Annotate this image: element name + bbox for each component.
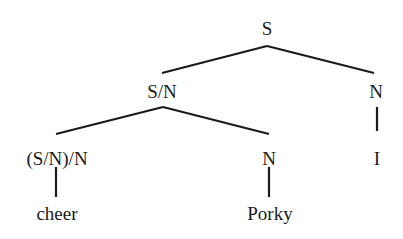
node-s-over-n: S/N (147, 82, 177, 101)
node-n-right: N (369, 82, 383, 101)
node-s-over-n-over-n: (S/N)/N (26, 149, 87, 168)
node-n-middle: N (262, 149, 276, 168)
edge-s-to-sn (162, 46, 267, 73)
leaf-cheer: cheer (36, 204, 77, 223)
node-i: I (374, 149, 380, 168)
edge-s-to-n-right (267, 46, 374, 73)
node-root-s: S (262, 19, 273, 38)
leaf-porky: Porky (247, 204, 292, 223)
edge-sn-to-n-mid (163, 107, 269, 134)
edge-sn-to-snn (56, 107, 163, 134)
